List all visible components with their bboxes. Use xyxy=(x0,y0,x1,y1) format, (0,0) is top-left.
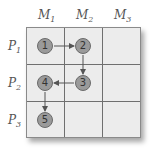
node-5: 5 xyxy=(37,112,53,128)
arrows-layer xyxy=(0,0,153,150)
node-3: 3 xyxy=(75,75,91,91)
node-1: 1 xyxy=(37,38,53,54)
node-4: 4 xyxy=(37,75,53,91)
node-2: 2 xyxy=(75,38,91,54)
